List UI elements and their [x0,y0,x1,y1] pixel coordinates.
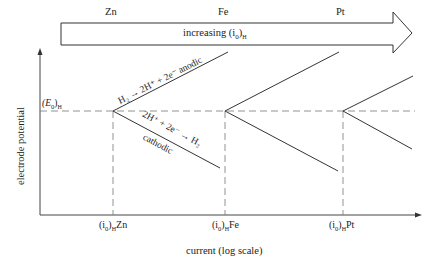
x-tick-metal: Fe [229,219,239,230]
e0-label: (E0)H [42,98,62,110]
x-tick-zn: (i0)HZn [99,219,127,232]
x-tick-fe: (i0)HFe [212,219,239,232]
x-tick-metal: Pt [346,219,354,230]
arrow-label-text: increasing (i [183,27,235,38]
x-tick-metal: Zn [116,219,127,230]
e0-label-main: (E [42,98,51,108]
zn-anodic-line [113,52,228,111]
x-axis-arrowhead-icon [415,213,422,218]
y-axis-label: electrode potential [15,107,26,185]
pt-anodic-line [343,76,413,111]
y-axis-arrowhead-icon [38,48,43,55]
x-tick-pt: (i0)HPt [329,219,354,232]
metal-label-pt: Pt [336,6,345,17]
metal-label-zn: Zn [105,6,117,17]
fe-anodic-line [225,52,339,111]
x-axis-label: current (log scale) [186,245,262,256]
pt-cathodic-line [343,111,412,149]
e0-label-subh: H [57,104,61,110]
metal-label-fe: Fe [218,6,229,17]
arrow-label: increasing (i0)H [183,27,247,41]
fe-cathodic-line [225,111,338,171]
arrow-label-subh: H [242,34,246,40]
